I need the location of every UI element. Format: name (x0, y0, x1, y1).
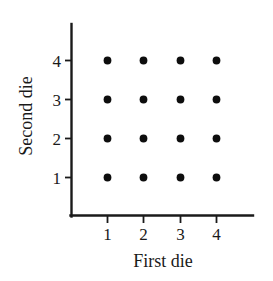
axes-group (71, 24, 254, 217)
x-tick-label-3: 3 (176, 226, 185, 243)
x-axis-title: First die (133, 252, 193, 270)
plot-canvas (0, 0, 273, 281)
data-point (213, 174, 221, 182)
scatter-plot-figure: 1 2 3 4 4 3 2 1 First die Second die (0, 0, 273, 281)
data-point (213, 135, 221, 143)
y-tick-label-2: 2 (53, 130, 62, 147)
y-tick-label-3: 3 (53, 91, 62, 108)
data-point (177, 57, 185, 65)
data-point (140, 174, 148, 182)
data-point (177, 135, 185, 143)
y-tick-label-1: 1 (53, 169, 62, 186)
data-points-group (104, 57, 221, 182)
data-point (140, 135, 148, 143)
data-point (140, 96, 148, 104)
x-tick-label-4: 4 (212, 226, 221, 243)
data-point (213, 57, 221, 65)
data-point (213, 96, 221, 104)
x-tick-marks (108, 216, 217, 223)
x-tick-label-2: 2 (139, 226, 148, 243)
x-tick-label-1: 1 (103, 226, 112, 243)
y-axis-title: Second die (17, 76, 35, 155)
data-point (104, 174, 112, 182)
y-tick-label-4: 4 (53, 52, 62, 69)
data-point (177, 96, 185, 104)
data-point (177, 174, 185, 182)
data-point (104, 57, 112, 65)
data-point (104, 135, 112, 143)
data-point (104, 96, 112, 104)
data-point (140, 57, 148, 65)
